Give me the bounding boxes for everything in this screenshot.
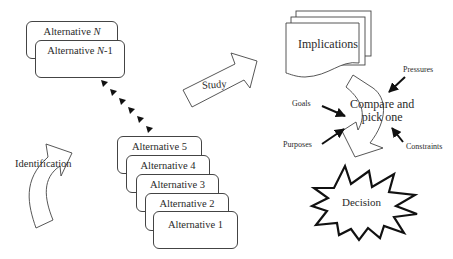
- constraints-arrow: [392, 128, 403, 142]
- alternative-1-label: Alternative 1: [154, 219, 237, 230]
- constraints-label: Constraints: [406, 143, 442, 151]
- purposes-arrow: [322, 129, 344, 144]
- compare-label: Compare and pick one: [350, 98, 414, 123]
- pressures-label: Pressures: [403, 66, 433, 74]
- implications-label: Implications: [298, 38, 358, 50]
- alternative-1-card: Alternative 1: [153, 211, 238, 249]
- goals-arrow: [322, 106, 345, 116]
- goals-label: Goals: [292, 100, 311, 108]
- ellipsis-triangle-chain: [91, 70, 153, 133]
- identification-label: Identification: [15, 159, 72, 170]
- alternative-4-label: Alternative 4: [127, 160, 209, 171]
- alternative-n-minus-1-label: Alternative N-1: [36, 45, 124, 56]
- compare-line-2: pick one: [350, 111, 414, 124]
- alternative-n-label: Alternative N: [27, 26, 117, 37]
- alternative-n-minus-1-card: Alternative N-1: [35, 40, 125, 78]
- identification-arrow: [29, 144, 72, 228]
- alternative-3-label: Alternative 3: [137, 179, 218, 190]
- compare-line-1: Compare and: [350, 98, 414, 111]
- pressures-arrow: [389, 77, 405, 92]
- alternative-2-label: Alternative 2: [146, 198, 228, 209]
- alternative-5-label: Alternative 5: [118, 141, 201, 152]
- study-label: Study: [202, 79, 227, 91]
- decision-label: Decision: [342, 197, 381, 208]
- purposes-label: Purposes: [283, 141, 312, 149]
